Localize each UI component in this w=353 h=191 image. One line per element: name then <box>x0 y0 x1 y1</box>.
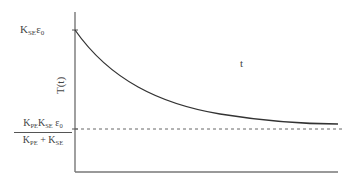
x-axis-label: t <box>240 58 243 69</box>
plus-sign: + <box>38 134 49 145</box>
epsilon-subscript: 0 <box>41 29 45 37</box>
chart-plot-area <box>0 0 353 191</box>
decay-chart: KSEε0 T(t) t KPEKSE ε0 KPE + KSE <box>0 0 353 191</box>
decay-curve <box>75 30 338 124</box>
k-subscript: SE <box>28 29 36 37</box>
k-pe-subscript: PE <box>30 122 38 129</box>
y-tick-label-asymptote: KPEKSE ε0 KPE + KSE <box>14 117 72 148</box>
k-pe-subscript: PE <box>30 139 38 146</box>
fraction-numerator: KPEKSE ε0 <box>14 117 72 131</box>
y-axis-label: T(t) <box>55 77 66 94</box>
k-symbol: K <box>20 23 28 35</box>
epsilon-subscript: 0 <box>60 122 63 129</box>
fraction-bar <box>14 132 72 133</box>
k-se-symbol: K <box>48 134 55 145</box>
y-tick-label-top: KSEε0 <box>20 24 44 37</box>
k-pe-symbol: K <box>23 134 30 145</box>
fraction-denominator: KPE + KSE <box>14 134 72 148</box>
k-se-subscript: SE <box>56 139 64 146</box>
epsilon-symbol: ε <box>53 117 60 128</box>
k-se-subscript: SE <box>45 122 53 129</box>
